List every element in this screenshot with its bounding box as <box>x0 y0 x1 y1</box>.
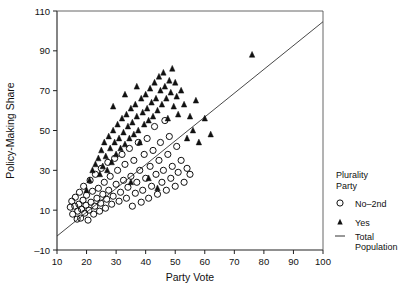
point-open-circle <box>147 163 153 169</box>
point-filled-triangle <box>127 135 132 141</box>
point-open-circle <box>88 199 94 205</box>
point-open-circle <box>114 167 120 173</box>
fit-line-group <box>57 11 336 236</box>
point-filled-triangle <box>103 153 108 159</box>
point-filled-triangle <box>108 145 113 151</box>
point-open-circle <box>119 151 125 157</box>
point-open-circle <box>181 179 187 185</box>
point-open-circle <box>153 171 159 177</box>
point-open-circle <box>159 179 165 185</box>
point-filled-triangle <box>140 109 145 115</box>
data-points <box>67 51 255 223</box>
y-axis-title: Policy-Making Share <box>4 82 16 178</box>
x-tick-label: 10 <box>52 256 63 267</box>
point-filled-triangle <box>133 101 138 107</box>
point-open-circle <box>156 157 162 163</box>
point-open-circle <box>106 187 112 193</box>
point-open-circle <box>157 139 163 145</box>
point-filled-triangle <box>128 105 133 111</box>
point-open-circle <box>178 157 184 163</box>
point-open-circle <box>137 167 143 173</box>
point-filled-triangle <box>150 113 155 119</box>
point-filled-triangle <box>119 115 124 121</box>
point-filled-triangle <box>170 65 175 71</box>
point-open-circle <box>151 123 157 129</box>
point-open-circle <box>102 205 108 211</box>
point-filled-triangle <box>118 145 123 151</box>
point-filled-triangle <box>139 95 144 101</box>
point-filled-triangle <box>84 187 89 193</box>
point-filled-triangle <box>143 91 148 97</box>
point-filled-triangle <box>124 111 129 117</box>
legend-label-yes: Yes <box>355 218 370 228</box>
point-open-circle <box>117 189 123 195</box>
point-open-circle <box>168 175 174 181</box>
point-filled-triangle <box>187 113 192 119</box>
point-filled-triangle <box>161 69 166 75</box>
point-filled-triangle <box>193 97 198 103</box>
point-open-circle <box>85 217 91 223</box>
point-open-circle <box>92 203 98 209</box>
point-filled-triangle <box>141 121 146 127</box>
point-filled-triangle <box>162 83 167 89</box>
point-filled-triangle <box>99 147 104 153</box>
chart-canvas: 102030405060708090100–101030507090110Par… <box>0 0 405 293</box>
point-filled-triangle <box>158 87 163 93</box>
y-tick-label: –10 <box>34 245 50 256</box>
point-open-circle <box>91 211 97 217</box>
point-filled-triangle <box>131 131 136 137</box>
point-filled-triangle <box>134 83 139 89</box>
point-filled-triangle <box>147 85 152 91</box>
point-filled-triangle <box>96 155 101 161</box>
point-filled-triangle <box>102 139 107 145</box>
x-axis-title: Party Vote <box>166 271 215 283</box>
x-tick-label: 60 <box>199 256 210 267</box>
legend-open-circle-icon <box>337 200 343 206</box>
point-open-circle <box>132 190 138 196</box>
point-filled-triangle <box>168 89 173 95</box>
x-tick-label: 20 <box>81 256 92 267</box>
x-tick-label: 90 <box>288 256 299 267</box>
point-filled-triangle <box>184 135 189 141</box>
point-filled-triangle <box>175 111 180 117</box>
point-filled-triangle <box>144 105 149 111</box>
point-filled-triangle <box>112 139 117 145</box>
y-tick-label: 70 <box>39 85 50 96</box>
x-tick-label: 80 <box>259 256 270 267</box>
point-filled-triangle <box>122 91 127 97</box>
x-tick-label: 100 <box>315 256 331 267</box>
point-open-circle <box>67 204 73 210</box>
point-open-circle <box>140 187 146 193</box>
point-filled-triangle <box>122 141 127 147</box>
y-tick-label: 30 <box>39 165 50 176</box>
point-open-circle <box>116 198 122 204</box>
point-open-circle <box>104 196 110 202</box>
point-filled-triangle <box>181 101 186 107</box>
point-open-circle <box>154 191 160 197</box>
point-filled-triangle <box>106 133 111 139</box>
point-filled-triangle <box>155 185 160 191</box>
point-filled-triangle <box>153 95 158 101</box>
point-filled-triangle <box>149 99 154 105</box>
x-tick-label: 30 <box>111 256 122 267</box>
point-filled-triangle <box>174 93 179 99</box>
legend-title-line2: Party <box>336 181 358 191</box>
legend <box>335 200 345 236</box>
point-open-circle <box>134 179 140 185</box>
point-filled-triangle <box>90 167 95 173</box>
point-open-circle <box>131 157 137 163</box>
scatter-chart-figure: 102030405060708090100–101030507090110Par… <box>0 0 405 293</box>
y-tick-label: 110 <box>35 6 50 17</box>
point-open-circle <box>83 192 89 198</box>
x-tick-label: 50 <box>170 256 181 267</box>
point-open-circle <box>101 179 107 185</box>
point-filled-triangle <box>167 77 172 83</box>
y-tick-label: 10 <box>39 205 50 216</box>
point-open-circle <box>184 165 190 171</box>
point-open-circle <box>163 187 169 193</box>
point-open-circle <box>160 167 166 173</box>
point-filled-triangle <box>110 127 115 133</box>
legend-label-total: Total <box>355 232 374 242</box>
point-filled-triangle <box>178 87 183 93</box>
x-tick-label: 40 <box>140 256 151 267</box>
